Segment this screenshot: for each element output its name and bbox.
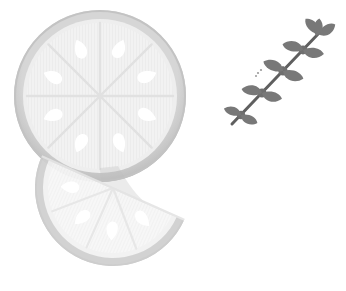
illustration-canvas: Citrus fruit slice illustration Whole ro… <box>0 0 346 291</box>
citrus-illustration-svg <box>0 0 346 291</box>
orange-slice-round <box>14 10 186 182</box>
herb-sprig <box>223 15 338 128</box>
herb-stem <box>232 32 320 124</box>
segment-dividers <box>27 23 173 169</box>
